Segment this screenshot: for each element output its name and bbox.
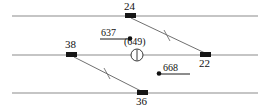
node-label-36: 36 [136,96,147,107]
point-label-668: 668 [163,63,178,73]
station-649-symbol-group[interactable] [131,49,143,61]
node-label-38: 38 [65,39,76,50]
node-marker-24[interactable] [125,13,136,18]
node-label-24: 24 [124,1,135,12]
survey-diagram: 24 38 22 36 637 668 (649) [0,0,271,112]
point-label-637: 637 [101,28,116,38]
point-668-dot[interactable] [157,71,162,76]
connector-tick-38-36 [104,68,110,79]
station-label-649: (649) [124,37,146,47]
node-label-22: 22 [199,58,210,69]
node-marker-38[interactable] [66,52,77,57]
